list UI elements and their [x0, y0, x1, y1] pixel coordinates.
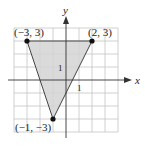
coordinate-plane: x y 1 1 (−3, 3) (2, 3) (−1, −3) — [0, 0, 145, 148]
x-tick-label: 1 — [77, 83, 82, 93]
x-axis-label: x — [134, 74, 140, 86]
vertex-label: (−3, 3) — [14, 26, 44, 39]
x-axis-arrow-icon — [124, 77, 132, 83]
vertex-point — [89, 38, 94, 43]
vertex-label: (−1, −3) — [15, 121, 52, 134]
vertex-label: (2, 3) — [88, 26, 112, 39]
y-axis-arrow-icon — [63, 16, 69, 24]
y-axis-label: y — [62, 4, 68, 16]
y-tick-label: 1 — [58, 63, 63, 73]
vertex-point — [24, 38, 29, 43]
